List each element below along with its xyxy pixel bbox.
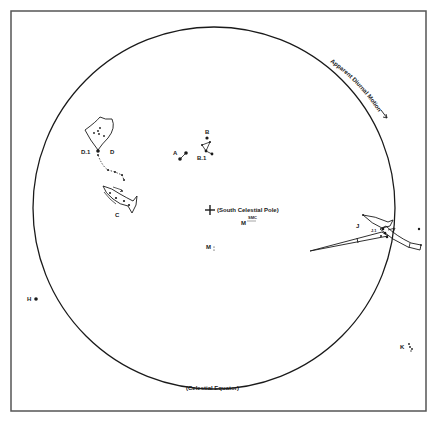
label-d: D — [110, 149, 115, 155]
celestial-equator-circle — [33, 27, 395, 389]
asterism-a — [178, 151, 188, 161]
m-lower-label: M — [206, 244, 211, 250]
south-pole-label: (South Celestial Pole) — [217, 207, 279, 213]
label-d1: D.1 — [81, 149, 91, 155]
diurnal-arrow-icon — [381, 110, 387, 118]
asterism-k — [408, 343, 413, 352]
diurnal-motion-label: Apparent Diurnal Motion — [329, 58, 382, 113]
label-j: J — [356, 223, 359, 229]
star — [213, 246, 214, 247]
sky-chart: Apparent Diurnal Motion (South Celestial… — [0, 0, 437, 423]
star-h — [34, 297, 38, 301]
label-j1: J.1 — [371, 228, 377, 233]
label-h: H — [27, 296, 31, 302]
constellation-j — [310, 214, 422, 251]
m-upper-label: M — [241, 220, 246, 226]
asterism-b — [201, 136, 213, 155]
m-upper-note: SMC — [248, 215, 257, 220]
constellation-d — [85, 117, 125, 181]
label-b: B — [205, 129, 210, 135]
label-c: C — [115, 212, 120, 218]
constellation-c — [103, 186, 137, 213]
star — [213, 249, 214, 250]
label-k: K — [400, 344, 405, 350]
celestial-equator-label: (Celestial Equator) — [186, 385, 239, 391]
south-pole-marker — [205, 205, 215, 215]
label-a: A — [173, 150, 178, 156]
label-b1: B.1 — [197, 155, 207, 161]
sky-chart-svg: Apparent Diurnal Motion (South Celestial… — [0, 0, 437, 423]
